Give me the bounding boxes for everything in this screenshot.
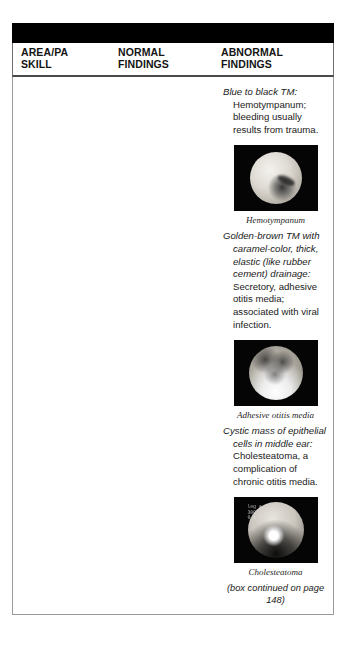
table-header-bar <box>12 23 334 43</box>
camera-overlay-text: leg a 300 0 1 0 <box>248 504 262 521</box>
column-header-area-pa-skill: AREA/PA SKILL <box>13 47 118 70</box>
finding-body: Cholesteatoma, a complication of chronic… <box>233 450 318 486</box>
otoscopic-photo-adhesive-otitis-media <box>234 340 318 406</box>
column-header-normal-findings: NORMAL FINDINGS <box>118 47 221 70</box>
column-header-normal-findings-line1: NORMAL <box>118 46 165 58</box>
column-header-area-pa-skill-line1: AREA/PA <box>21 46 68 58</box>
box-continued-note: (box continued on page 148) <box>223 582 328 606</box>
finding-entry: Blue to black TM: Hemotympanum; bleeding… <box>223 86 328 136</box>
assessment-table-box: AREA/PA SKILL NORMAL FINDINGS ABNORMAL F… <box>12 23 334 615</box>
column-header-abnormal-findings: ABNORMAL FINDINGS <box>221 47 333 70</box>
finding-lead: Cystic mass of epithelial cells in middl… <box>223 425 326 449</box>
finding-lead: Blue to black TM: <box>223 86 297 97</box>
table-body: Blue to black TM: Hemotympanum; bleeding… <box>12 77 334 615</box>
photo-block: Adhesive otitis media <box>223 340 328 421</box>
photo-caption: Hemotympanum <box>223 214 328 226</box>
otoscopic-photo-hemotympanum <box>234 145 318 211</box>
otoscopic-photo-cholesteatoma: leg a 300 0 1 0 <box>234 497 318 563</box>
finding-entry: Cystic mass of epithelial cells in middl… <box>223 425 328 488</box>
photo-caption: Cholesteatoma <box>223 566 328 578</box>
column-header-area-pa-skill-line2: SKILL <box>21 59 118 71</box>
finding-entry: Golden-brown TM with caramel-color, thic… <box>223 230 328 331</box>
finding-lead: Golden-brown TM with caramel-color, thic… <box>223 230 320 279</box>
cell-normal-findings <box>118 77 221 614</box>
eardrum-disc <box>250 152 302 204</box>
photo-block: leg a 300 0 1 0 Cholesteatoma <box>223 497 328 578</box>
eardrum-disc <box>249 346 303 400</box>
photo-caption: Adhesive otitis media <box>223 409 328 421</box>
cell-abnormal-findings: Blue to black TM: Hemotympanum; bleeding… <box>221 77 333 614</box>
finding-text: Blue to black TM: Hemotympanum; bleeding… <box>223 86 328 136</box>
finding-body: Secretory, adhesive otitis media; associ… <box>233 281 319 330</box>
finding-body: Hemotympanum; bleeding usually results f… <box>233 99 318 135</box>
page: AREA/PA SKILL NORMAL FINDINGS ABNORMAL F… <box>0 0 346 663</box>
finding-text: Cystic mass of epithelial cells in middl… <box>223 425 328 488</box>
column-header-abnormal-findings-line1: ABNORMAL <box>221 46 283 58</box>
table-column-headers: AREA/PA SKILL NORMAL FINDINGS ABNORMAL F… <box>12 43 334 77</box>
column-header-normal-findings-line2: FINDINGS <box>118 59 221 71</box>
photo-block: Hemotympanum <box>223 145 328 226</box>
column-header-abnormal-findings-line2: FINDINGS <box>221 59 333 71</box>
cell-area-pa-skill <box>13 77 118 614</box>
finding-text: Golden-brown TM with caramel-color, thic… <box>223 230 328 331</box>
